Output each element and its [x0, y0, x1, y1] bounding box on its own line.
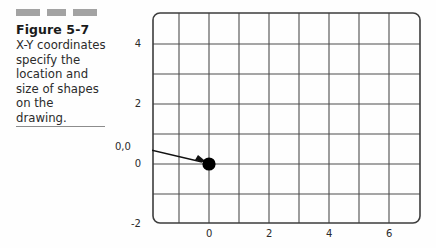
data-point-origin — [202, 157, 215, 170]
origin-annotation-label: 0,0 — [115, 141, 131, 152]
grid-horizontal-lines — [153, 44, 420, 194]
y-axis-tick-label: 0 — [128, 158, 141, 169]
figure-page: Figure 5-7 X-Y coordinates specify the l… — [0, 0, 436, 248]
chart-area: 4 2 0 -2 0 2 4 6 0,0 — [0, 0, 436, 248]
x-axis-tick-label: 2 — [266, 228, 272, 239]
x-axis-tick-label: 6 — [386, 228, 392, 239]
plot-frame — [152, 12, 421, 224]
y-axis-tick-label: -2 — [126, 218, 141, 229]
y-axis-tick-label: 4 — [128, 38, 141, 49]
y-axis-tick-label: 2 — [128, 98, 141, 109]
plot-grid-svg — [152, 12, 421, 224]
x-axis-tick-label: 4 — [326, 228, 332, 239]
origin-annotation-arrow — [152, 147, 209, 164]
x-axis-tick-label: 0 — [206, 228, 212, 239]
